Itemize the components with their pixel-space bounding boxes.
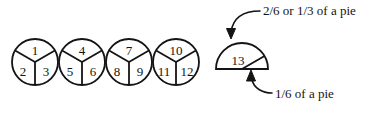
pie-2-slice-label-5: 5 — [67, 64, 74, 79]
annotation-bottom-arrowhead-icon — [247, 70, 256, 81]
pie-4-slice-label-12: 12 — [181, 64, 194, 79]
pie-3-group: 7 8 9 — [106, 39, 152, 85]
pie-3-slice-label-7: 7 — [126, 43, 133, 58]
pie-4-slice-label-10: 10 — [170, 43, 183, 58]
pie-1-slice-label-3: 3 — [43, 64, 50, 79]
pie-2-slice-label-4: 4 — [79, 43, 86, 58]
partial-pie-group: 13 — [216, 43, 268, 69]
annotation-bottom-label: 1/6 of a pie — [275, 86, 375, 101]
annotation-top-label: 2/6 or 1/3 of a pie — [263, 3, 375, 18]
pie-1-slice-label-1: 1 — [32, 43, 39, 58]
pie-1-group: 1 2 3 — [12, 39, 58, 85]
partial-pie-divider — [242, 56, 265, 69]
pie-2-slice-label-6: 6 — [90, 64, 97, 79]
pie-4-group: 10 11 12 — [153, 39, 199, 85]
pie-3-slice-label-8: 8 — [114, 64, 121, 79]
annotation-bottom-leader-curve — [252, 80, 272, 93]
pie-3-slice-label-9: 9 — [137, 64, 144, 79]
annotation-bottom-leader — [247, 70, 273, 93]
partial-pie-slice-label-13: 13 — [232, 53, 245, 68]
pie-4-slice-label-11: 11 — [158, 64, 171, 79]
pie-1-slice-label-2: 2 — [20, 64, 27, 79]
pie-2-group: 4 5 6 — [59, 39, 105, 85]
annotation-top-leader — [227, 11, 261, 39]
annotation-top-arrowhead-icon — [227, 29, 236, 40]
